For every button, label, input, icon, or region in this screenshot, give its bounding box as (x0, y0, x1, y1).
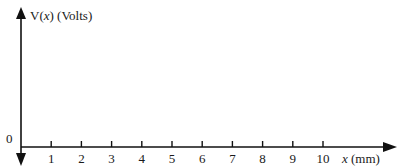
x-tick-label: 4 (139, 151, 146, 166)
y-origin-label: 0 (6, 131, 13, 146)
x-tick-label: 3 (108, 151, 115, 166)
x-ticks-group: 12345678910 (48, 141, 330, 166)
y-axis-up-arrow-icon (16, 7, 26, 19)
chart-canvas: V(x) (Volts) 0 x (mm) 12345678910 (0, 0, 398, 168)
x-axis-right-arrow-icon (383, 142, 397, 152)
x-tick-label: 7 (229, 151, 236, 166)
x-tick-label: 8 (259, 151, 266, 166)
y-axis-label: V(x) (Volts) (30, 8, 92, 23)
y-axis-down-arrow-icon (16, 153, 26, 166)
x-tick-label: 6 (199, 151, 206, 166)
x-tick-label: 1 (48, 151, 55, 166)
x-tick-label: 9 (290, 151, 297, 166)
x-tick-label: 10 (317, 151, 330, 166)
x-tick-label: 5 (169, 151, 176, 166)
x-tick-label: 2 (78, 151, 85, 166)
x-axis-label: x (mm) (341, 151, 380, 166)
